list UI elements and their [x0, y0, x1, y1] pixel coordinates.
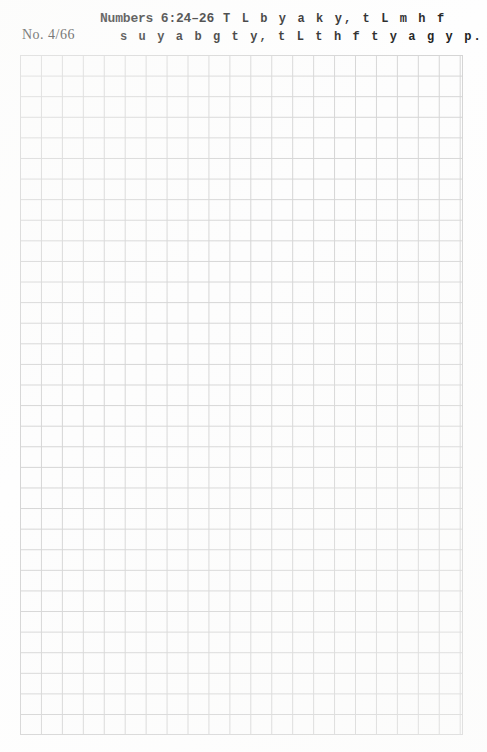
shorthand-line-2: s u y a b g t y, t L t h f t y a g y p.: [120, 30, 483, 44]
page-header: No. 4/66 Numbers 6:24–26T L b y a k y, t…: [0, 0, 487, 52]
sheet-number-label: No. 4/66: [22, 27, 75, 43]
header-line-2: s u y a b g t y, t L t h f t y a g y p.: [100, 28, 480, 47]
verse-reference-title: Numbers 6:24–26: [100, 11, 214, 26]
shorthand-line-1: T L b y a k y, t L m h f: [223, 12, 446, 26]
graph-paper-grid: [20, 55, 463, 735]
header-line-1: Numbers 6:24–26T L b y a k y, t L m h f: [100, 9, 480, 28]
typewritten-header-block: Numbers 6:24–26T L b y a k y, t L m h f …: [100, 9, 480, 47]
graph-paper-page: No. 4/66 Numbers 6:24–26T L b y a k y, t…: [0, 0, 487, 752]
